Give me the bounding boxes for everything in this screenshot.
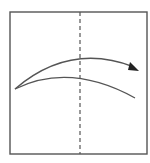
arrowhead-icon xyxy=(128,62,139,71)
fold-arrow-lower-curve xyxy=(15,77,135,98)
fold-arrow-upper-curve xyxy=(15,58,134,89)
origami-diagram xyxy=(0,0,150,163)
